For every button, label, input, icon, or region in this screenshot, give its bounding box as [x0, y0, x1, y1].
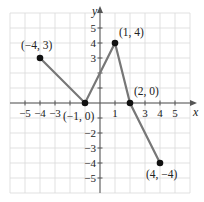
x-tick-label: −4	[34, 107, 46, 119]
x-axis-label: x	[192, 105, 199, 119]
point-label: (4, −4)	[146, 168, 178, 181]
point-label: (−4, 3)	[21, 39, 53, 52]
x-tick-label: 5	[172, 107, 178, 119]
x-tick-label: −5	[19, 107, 31, 119]
data-point	[112, 40, 119, 47]
y-tick-label: 3	[91, 52, 97, 64]
y-tick-label: −2	[84, 127, 96, 139]
coordinate-plane: −5−4−31345543−2−3−4−5xy(−4, 3)(−1, 0)(1,…	[0, 0, 204, 202]
y-axis-arrow-icon	[97, 6, 103, 13]
y-tick-label: −5	[84, 172, 96, 184]
point-label: (2, 0)	[134, 85, 159, 98]
point-label: (−1, 0)	[63, 110, 95, 123]
labels: −5−4−31345543−2−3−4−5xy(−4, 3)(−1, 0)(1,…	[19, 4, 199, 184]
x-tick-label: 4	[157, 107, 163, 119]
y-tick-label: −4	[84, 157, 96, 169]
data-point	[127, 100, 134, 107]
data-point	[157, 160, 164, 167]
data-point	[82, 100, 89, 107]
point-label: (1, 4)	[119, 26, 144, 39]
x-tick-label: 3	[142, 107, 148, 119]
data-point	[37, 55, 44, 62]
y-tick-label: 4	[91, 37, 97, 49]
axes	[10, 6, 197, 193]
y-tick-label: −3	[84, 142, 96, 154]
y-tick-label: 5	[91, 22, 97, 34]
x-tick-label: −3	[49, 107, 61, 119]
x-tick-label: 1	[112, 107, 118, 119]
y-axis-label: y	[91, 4, 98, 18]
